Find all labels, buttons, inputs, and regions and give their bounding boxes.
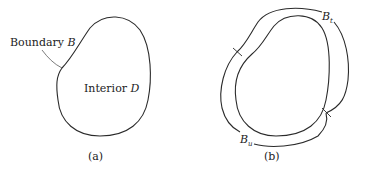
traction-boundary-label: Bt [321, 10, 333, 25]
diagram-canvas: Boundary B Interior D (a) Bt Bu (b) [0, 0, 366, 173]
caption-b: (b) [264, 150, 280, 163]
interior-label: Interior D [84, 82, 140, 95]
displacement-boundary-curve-bottom [254, 113, 327, 146]
figure-b: Bt Bu (b) [221, 8, 349, 163]
displacement-boundary-label: Bu [239, 133, 253, 148]
traction-boundary-curve [237, 8, 322, 52]
caption-a: (a) [88, 150, 103, 163]
inner-boundary-curve [235, 16, 329, 136]
region-boundary-curve [57, 17, 151, 136]
figure-a: Boundary B Interior D (a) [10, 17, 150, 163]
boundary-label: Boundary B [10, 36, 76, 49]
displacement-boundary-curve [221, 52, 240, 132]
boundary-leader-line [42, 50, 62, 68]
